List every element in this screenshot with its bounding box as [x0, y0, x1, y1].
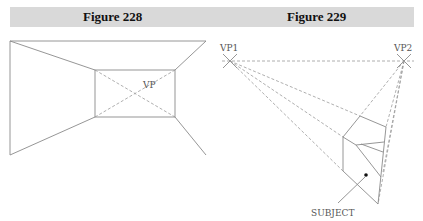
vp2-label: VP2: [393, 43, 412, 53]
vp1-label: VP1: [219, 43, 238, 53]
figure-229-diagram: VP1 VP2 SUBJECT: [219, 43, 414, 218]
subject-label: SUBJECT: [311, 208, 354, 218]
subject-dot-icon: [364, 173, 368, 177]
vp-label: VP: [142, 80, 156, 90]
figure-228-diagram: VP: [10, 41, 206, 155]
figures-canvas: VP VP1 VP2 SUBJEC: [0, 0, 423, 221]
